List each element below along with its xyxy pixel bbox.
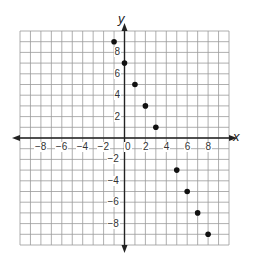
x-tick-label: 4 bbox=[163, 142, 171, 152]
y-tick-label: 2 bbox=[114, 112, 122, 122]
x-tick-label: 6 bbox=[184, 142, 192, 152]
x-axis-arrow-left-icon bbox=[12, 135, 20, 141]
y-tick-label: 8 bbox=[114, 47, 122, 57]
x-tick-label: 0 bbox=[124, 142, 132, 152]
y-axis-label: y bbox=[118, 12, 125, 25]
data-point bbox=[143, 103, 149, 109]
x-tick-label: −2 bbox=[97, 142, 110, 152]
x-axis-label: x bbox=[233, 130, 240, 143]
y-axis-arrow-down-icon bbox=[122, 245, 128, 253]
x-tick-label: −8 bbox=[34, 142, 47, 152]
x-tick-label: 8 bbox=[205, 142, 213, 152]
x-tick-label: −6 bbox=[55, 142, 68, 152]
coordinate-plane bbox=[0, 0, 253, 257]
data-point bbox=[122, 60, 128, 66]
y-tick-label: −4 bbox=[107, 176, 120, 186]
data-point bbox=[184, 189, 190, 195]
y-tick-label: 6 bbox=[114, 69, 122, 79]
x-tick-label: −4 bbox=[76, 142, 89, 152]
data-point bbox=[195, 210, 201, 216]
y-tick-label: −8 bbox=[107, 219, 120, 229]
x-tick-label: 2 bbox=[142, 142, 150, 152]
data-point bbox=[174, 167, 180, 173]
data-point bbox=[153, 125, 159, 131]
data-point bbox=[111, 39, 117, 45]
y-tick-label: −6 bbox=[107, 197, 120, 207]
y-tick-label: −2 bbox=[107, 154, 120, 164]
y-tick-label: 4 bbox=[114, 90, 122, 100]
data-point bbox=[132, 82, 138, 88]
data-point bbox=[205, 232, 211, 238]
